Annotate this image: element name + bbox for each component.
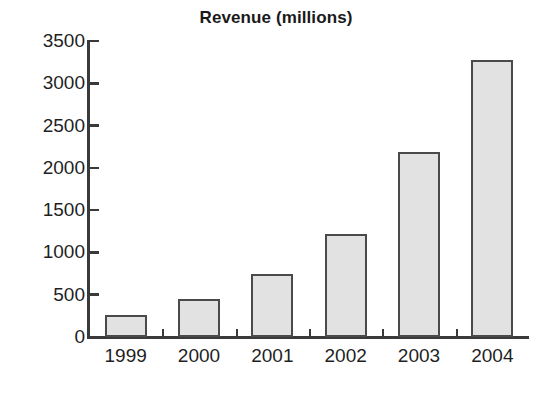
y-axis-tick-label: 2500: [43, 115, 85, 137]
y-axis-tick: [89, 40, 99, 43]
x-axis-tick: [309, 329, 311, 337]
x-axis-tick: [382, 329, 384, 337]
bar-2004[interactable]: [471, 60, 513, 337]
x-axis-label-2000: 2000: [178, 345, 220, 367]
y-axis-tick: [89, 209, 99, 212]
x-axis-tick: [456, 329, 458, 337]
x-axis-label-1999: 1999: [105, 345, 147, 367]
x-axis-tick: [162, 329, 164, 337]
y-axis-tick: [89, 251, 99, 254]
y-axis-tick-label: 2000: [43, 157, 85, 179]
bar-2001[interactable]: [251, 274, 293, 337]
bar-chart: Revenue (millions) 050010001500200025003…: [0, 0, 552, 396]
y-axis-tick-label: 3500: [43, 30, 85, 52]
y-axis-tick-label: 1000: [43, 241, 85, 263]
y-axis-tick: [89, 82, 99, 85]
y-axis-tick-label: 500: [53, 284, 85, 306]
x-axis-label-2001: 2001: [251, 345, 293, 367]
y-axis-tick-label: 1500: [43, 199, 85, 221]
x-axis-line: [87, 336, 529, 339]
y-axis-tick: [89, 124, 99, 127]
y-axis-tick: [89, 293, 99, 296]
chart-title: Revenue (millions): [0, 8, 552, 28]
bar-2003[interactable]: [398, 152, 440, 337]
y-axis-tick: [89, 336, 99, 339]
bar-1999[interactable]: [105, 315, 147, 337]
bar-2000[interactable]: [178, 299, 220, 337]
y-axis-tick: [89, 167, 99, 170]
x-axis-tick: [236, 329, 238, 337]
y-axis-tick-label: 0: [74, 326, 85, 348]
bar-2002[interactable]: [325, 234, 367, 337]
x-axis-label-2003: 2003: [398, 345, 440, 367]
y-axis-tick-label: 3000: [43, 72, 85, 94]
x-axis-label-2002: 2002: [325, 345, 367, 367]
x-axis-label-2004: 2004: [471, 345, 513, 367]
